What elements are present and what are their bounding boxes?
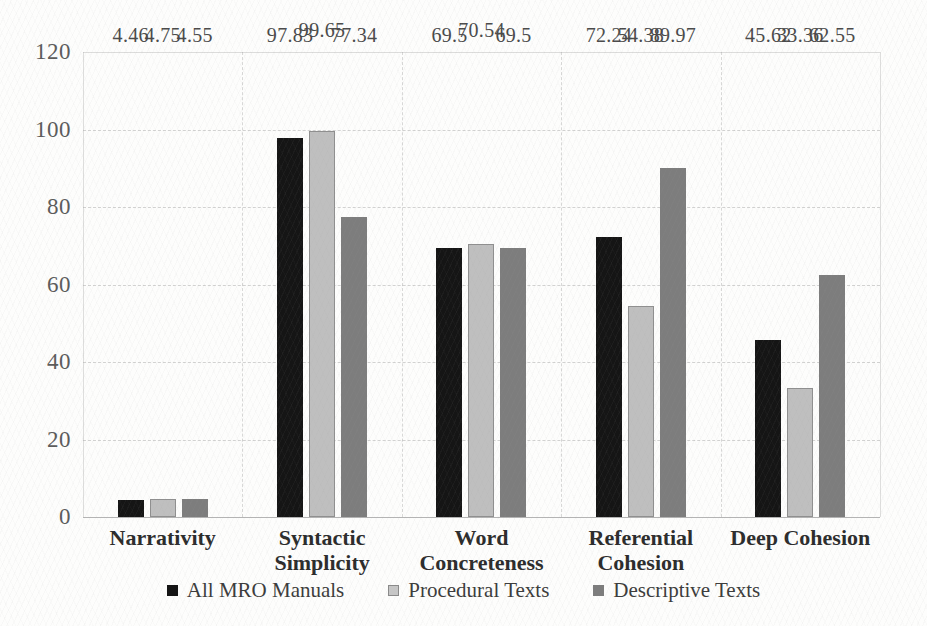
bar[interactable]: 72.24 — [596, 237, 622, 517]
series-0-swatch — [167, 585, 178, 596]
legend-label: Procedural Texts — [408, 578, 549, 603]
y-tick-label: 80 — [47, 194, 71, 220]
bar-value-label: 4.55 — [177, 24, 213, 47]
bar[interactable]: 69.5 — [500, 248, 526, 517]
bar-group-deep-cohesion: 45.6233.3662.55Deep Cohesion — [721, 52, 880, 517]
bar-value-label: 4.75 — [145, 24, 181, 47]
bar[interactable]: 4.55 — [182, 499, 208, 517]
bar-slot: 4.55 — [182, 52, 208, 517]
x-axis-category-label: SyntacticSimplicity — [242, 526, 401, 575]
bar-slot: 62.55 — [819, 52, 845, 517]
y-tick-label: 40 — [47, 349, 71, 375]
bar-slot: 69.5 — [500, 52, 526, 517]
bar[interactable]: 97.83 — [277, 138, 303, 517]
y-tick-label: 100 — [35, 117, 71, 143]
bar-group-referential-cohesion: 72.2454.3889.97ReferentialCohesion — [561, 52, 720, 517]
legend-item-2[interactable]: Descriptive Texts — [593, 578, 760, 603]
x-axis-category-label: Deep Cohesion — [721, 526, 880, 551]
bars-container: 72.2454.3889.97 — [561, 52, 720, 517]
bar-slot: 72.24 — [596, 52, 622, 517]
bar-value-label: 89.97 — [650, 24, 697, 47]
bar-group-syntactic-simplicity: 97.8399.6577.34SyntacticSimplicity — [242, 52, 401, 517]
bars-container: 45.6233.3662.55 — [721, 52, 880, 517]
x-axis-category-label: WordConcreteness — [402, 526, 561, 575]
gridline-y-0 — [83, 517, 880, 518]
bar-slot: 89.97 — [660, 52, 686, 517]
bar[interactable]: 62.55 — [819, 275, 845, 517]
bar[interactable]: 77.34 — [341, 217, 367, 517]
chart-legend: All MRO ManualsProcedural TextsDescripti… — [0, 578, 927, 603]
bar-value-label: 4.46 — [113, 24, 149, 47]
y-tick-label: 60 — [47, 272, 71, 298]
legend-label: Descriptive Texts — [613, 578, 760, 603]
bar[interactable]: 54.38 — [628, 306, 654, 517]
bar-group-word-concreteness: 69.570.5469.5WordConcreteness — [402, 52, 561, 517]
x-axis-category-label: Narrativity — [83, 526, 242, 551]
bar-slot: 70.54 — [468, 52, 494, 517]
bar[interactable]: 4.46 — [118, 500, 144, 517]
bar-slot: 69.5 — [436, 52, 462, 517]
y-tick-label: 0 — [59, 504, 71, 530]
legend-item-0[interactable]: All MRO Manuals — [167, 578, 345, 603]
bars-container: 69.570.5469.5 — [402, 52, 561, 517]
bar-slot: 4.46 — [118, 52, 144, 517]
legend-item-1[interactable]: Procedural Texts — [388, 578, 549, 603]
category-label-line: Narrativity — [83, 526, 242, 551]
bar-slot: 54.38 — [628, 52, 654, 517]
bar-value-label: 77.34 — [331, 24, 378, 47]
series-1-swatch — [388, 585, 399, 596]
bars-container: 4.464.754.55 — [83, 52, 242, 517]
legend-label: All MRO Manuals — [187, 578, 345, 603]
bar[interactable]: 45.62 — [755, 340, 781, 517]
bar-slot: 4.75 — [150, 52, 176, 517]
bar-value-label: 62.55 — [809, 24, 856, 47]
x-axis-category-label: ReferentialCohesion — [561, 526, 720, 575]
bar[interactable]: 69.5 — [436, 248, 462, 517]
category-label-line: Simplicity — [242, 551, 401, 576]
bars-container: 97.8399.6577.34 — [242, 52, 401, 517]
y-tick-label: 20 — [47, 427, 71, 453]
bar-slot: 99.65 — [309, 52, 335, 517]
bar-value-label: 69.5 — [495, 24, 531, 47]
bar-slot: 45.62 — [755, 52, 781, 517]
bar[interactable]: 70.54 — [468, 244, 494, 517]
category-label-line: Deep Cohesion — [721, 526, 880, 551]
category-label-line: Referential — [561, 526, 720, 551]
bar-group-narrativity: 4.464.754.55Narrativity — [83, 52, 242, 517]
bar-slot: 97.83 — [277, 52, 303, 517]
category-separator-5 — [880, 52, 881, 517]
category-label-line: Concreteness — [402, 551, 561, 576]
bar[interactable]: 4.75 — [150, 499, 176, 517]
bar-slot: 77.34 — [341, 52, 367, 517]
category-label-line: Syntactic — [242, 526, 401, 551]
category-label-line: Cohesion — [561, 551, 720, 576]
bar[interactable]: 89.97 — [660, 168, 686, 517]
bar-chart-figure: 020406080100120 4.464.754.55Narrativity9… — [0, 0, 927, 626]
category-label-line: Word — [402, 526, 561, 551]
plot-area: 020406080100120 4.464.754.55Narrativity9… — [83, 52, 880, 517]
series-2-swatch — [593, 585, 604, 596]
bar[interactable]: 99.65 — [309, 131, 335, 517]
bar-slot: 33.36 — [787, 52, 813, 517]
bar[interactable]: 33.36 — [787, 388, 813, 517]
y-tick-label: 120 — [35, 39, 71, 65]
